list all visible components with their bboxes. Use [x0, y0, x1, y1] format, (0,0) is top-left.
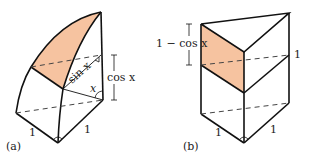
- bottom-back-dashed-b: [201, 103, 289, 114]
- bottom-edge-left-b: [201, 114, 244, 143]
- label-cos: cos x: [107, 71, 136, 84]
- label-angle: x: [90, 82, 97, 95]
- label-side: 1: [294, 48, 301, 61]
- bottom-edge-right: [58, 100, 103, 143]
- label-edge-left-a: 1: [29, 126, 36, 139]
- back-vertical-edge: [101, 12, 103, 100]
- label-edge-right-b: 1: [270, 123, 277, 136]
- panel-a: cos x sin x x 1 1 (a): [6, 12, 136, 153]
- panel-b-tag: (b): [183, 140, 199, 153]
- label-edge-right-a: 1: [84, 123, 91, 136]
- radius-segment: [63, 89, 103, 100]
- figure-canvas: cos x sin x x 1 1 (a) 1 − cos x 1 1 1: [0, 0, 310, 166]
- bottom-edge-right-b: [244, 103, 289, 143]
- panel-a-tag: (a): [6, 140, 21, 153]
- bottom-edge-left: [16, 113, 58, 143]
- panel-b: 1 − cos x 1 1 1 (b): [155, 13, 301, 153]
- shaded-region-b: [201, 24, 244, 93]
- label-height: 1 − cos x: [156, 37, 208, 50]
- label-edge-left-b: 1: [215, 126, 222, 139]
- mid-section-right: [244, 55, 289, 93]
